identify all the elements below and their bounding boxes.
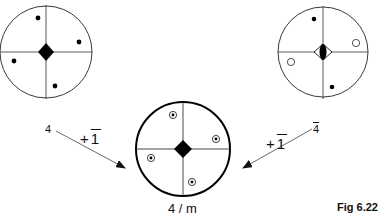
figure-caption: Fig 6.22	[337, 201, 378, 213]
pole-dot	[330, 85, 335, 90]
fourfold-axis-icon	[174, 140, 192, 158]
four-bar: 4	[313, 123, 319, 135]
pole-dot	[77, 40, 82, 45]
pole-dot	[36, 16, 41, 21]
pole-open	[287, 58, 294, 65]
pole-dot-in-circle	[212, 135, 219, 142]
stereogram-4	[0, 5, 92, 99]
pole-dot-in-circle	[169, 111, 176, 118]
stereogram-4-over-m	[136, 102, 230, 196]
inversion-symbol: 1	[91, 130, 101, 147]
fourfold-axis-icon	[38, 43, 54, 61]
pole-dot-in-circle	[147, 154, 154, 161]
label-op-right: +1	[266, 135, 287, 152]
plus-sign: +	[80, 130, 91, 147]
label-group-4: 4	[45, 123, 51, 135]
label-group-4-bar: 4	[313, 123, 319, 135]
pole-dot	[12, 59, 17, 64]
pole-dot	[312, 17, 317, 22]
inversion-symbol: 1	[277, 135, 287, 152]
label-op-left: +1	[80, 130, 101, 147]
pole-open	[352, 39, 359, 46]
pole-dot-in-circle	[188, 178, 195, 185]
stereogram-4-bar	[278, 6, 368, 99]
label-4-over-m: 4 / m	[168, 201, 197, 216]
pole-dot	[53, 84, 58, 89]
plus-sign: +	[266, 135, 277, 152]
